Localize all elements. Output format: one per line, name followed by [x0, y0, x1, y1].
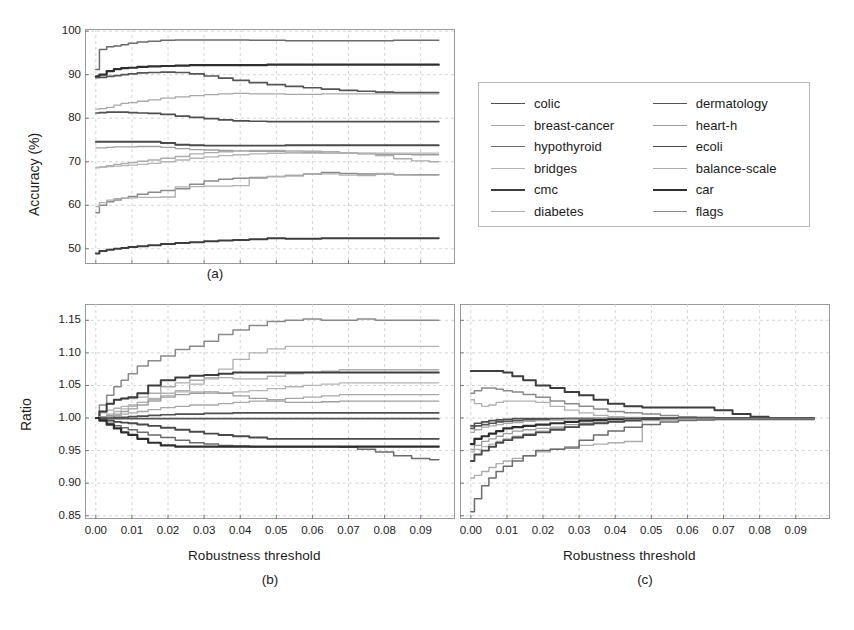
x-tick-label: 0.01: [116, 524, 148, 536]
x-tick-label: 0.05: [260, 524, 292, 536]
legend-label: breast-cancer: [534, 118, 614, 133]
legend-item-car[interactable]: car: [653, 179, 797, 201]
figure-root: Accuracy (%) 5060708090100 (a) colicderm…: [0, 0, 854, 630]
legend-swatch-icon: [653, 168, 687, 169]
legend-label: balance-scale: [696, 161, 777, 176]
x-tick-label: 0.02: [527, 524, 559, 536]
panel-b-xlabel: Robustness threshold: [188, 548, 321, 563]
legend-swatch-icon: [653, 103, 687, 104]
legend-swatch-icon: [653, 125, 687, 126]
x-tick-label: 0.00: [80, 524, 112, 536]
legend: colicdermatologybreast-cancerheart-hhypo…: [478, 82, 810, 227]
y-tick-label: 90: [0, 68, 81, 80]
legend-item-dermatology[interactable]: dermatology: [653, 93, 797, 115]
legend-item-ecoli[interactable]: ecoli: [653, 136, 797, 158]
legend-item-flags[interactable]: flags: [653, 201, 797, 223]
legend-label: heart-h: [696, 118, 738, 133]
panel-c-plot: [460, 304, 830, 519]
y-tick-label: 70: [0, 155, 81, 167]
y-tick-label: 60: [0, 198, 81, 210]
legend-label: bridges: [534, 161, 577, 176]
x-tick-label: 0.08: [744, 524, 776, 536]
legend-swatch-icon: [491, 211, 525, 212]
legend-item-bridges[interactable]: bridges: [491, 158, 635, 180]
legend-swatch-icon: [491, 103, 525, 104]
panel-a-caption: (a): [185, 266, 245, 281]
x-tick-label: 0.03: [188, 524, 220, 536]
panel-c-caption: (c): [615, 572, 675, 587]
legend-label: ecoli: [696, 139, 723, 154]
y-tick-label: 0.85: [0, 509, 81, 521]
x-tick-label: 0.07: [708, 524, 740, 536]
x-tick-label: 0.05: [635, 524, 667, 536]
y-tick-label: 100: [0, 24, 81, 36]
legend-item-heart-h[interactable]: heart-h: [653, 115, 797, 137]
legend-item-balance-scale[interactable]: balance-scale: [653, 158, 797, 180]
panel-a-plot: [85, 29, 455, 264]
legend-swatch-icon: [491, 146, 525, 147]
legend-label: colic: [534, 96, 560, 111]
legend-swatch-icon: [653, 189, 687, 191]
x-tick-label: 0.03: [563, 524, 595, 536]
y-tick-label: 1.15: [0, 313, 81, 325]
x-tick-label: 0.06: [671, 524, 703, 536]
legend-item-diabetes[interactable]: diabetes: [491, 201, 635, 223]
legend-swatch-icon: [653, 146, 687, 147]
x-tick-label: 0.09: [780, 524, 812, 536]
legend-label: dermatology: [696, 96, 768, 111]
legend-label: flags: [696, 204, 724, 219]
x-tick-label: 0.04: [224, 524, 256, 536]
panel-c-xlabel: Robustness threshold: [563, 548, 696, 563]
y-tick-label: 1.00: [0, 411, 81, 423]
legend-item-cmc[interactable]: cmc: [491, 179, 635, 201]
legend-label: hypothyroid: [534, 139, 602, 154]
panel-c: 0.000.010.020.030.040.050.060.070.080.09…: [375, 296, 845, 626]
legend-swatch-icon: [653, 211, 687, 212]
y-tick-label: 0.90: [0, 476, 81, 488]
legend-label: cmc: [534, 182, 558, 197]
legend-label: diabetes: [534, 204, 584, 219]
y-tick-label: 1.05: [0, 378, 81, 390]
legend-item-hypothyroid[interactable]: hypothyroid: [491, 136, 635, 158]
x-tick-label: 0.02: [152, 524, 184, 536]
y-tick-label: 0.95: [0, 444, 81, 456]
y-tick-label: 1.10: [0, 346, 81, 358]
x-tick-label: 0.04: [599, 524, 631, 536]
legend-swatch-icon: [491, 125, 525, 126]
panel-a: Accuracy (%) 5060708090100 (a): [0, 18, 460, 280]
legend-swatch-icon: [491, 189, 525, 191]
y-tick-label: 80: [0, 111, 81, 123]
legend-grid: colicdermatologybreast-cancerheart-hhypo…: [479, 83, 809, 230]
legend-item-colic[interactable]: colic: [491, 93, 635, 115]
panel-b-caption: (b): [240, 572, 300, 587]
x-tick-label: 0.06: [296, 524, 328, 536]
x-tick-label: 0.07: [333, 524, 365, 536]
legend-swatch-icon: [491, 168, 525, 169]
legend-label: car: [696, 182, 714, 197]
y-tick-label: 50: [0, 242, 81, 254]
x-tick-label: 0.01: [491, 524, 523, 536]
x-tick-label: 0.00: [455, 524, 487, 536]
legend-item-breast-cancer[interactable]: breast-cancer: [491, 115, 635, 137]
